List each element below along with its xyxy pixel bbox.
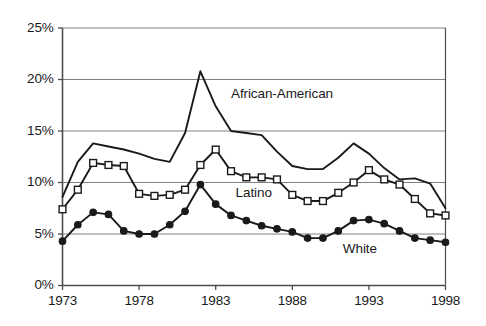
marker-square (350, 179, 357, 186)
marker-square (335, 189, 342, 196)
marker-square (212, 146, 219, 153)
x-tick-label-1973: 1973 (33, 293, 93, 308)
x-tick-label-1988: 1988 (262, 293, 322, 308)
marker-circle (366, 216, 373, 223)
marker-circle (75, 221, 82, 228)
chart-plot-area (0, 0, 486, 326)
marker-square (182, 186, 189, 193)
y-tick-label-5%: 5% (34, 226, 53, 241)
marker-circle (442, 239, 449, 246)
marker-circle (289, 229, 296, 236)
marker-circle (151, 231, 158, 238)
marker-square (151, 192, 158, 199)
marker-circle (320, 235, 327, 242)
marker-circle (59, 238, 66, 245)
marker-square (136, 190, 143, 197)
marker-circle (228, 212, 235, 219)
marker-square (243, 174, 250, 181)
marker-square (197, 162, 204, 169)
marker-square (366, 167, 373, 174)
marker-circle (396, 228, 403, 235)
marker-square (442, 212, 449, 219)
marker-circle (427, 237, 434, 244)
y-tick-label-0%: 0% (34, 277, 53, 292)
gridlines (63, 28, 446, 234)
marker-circle (335, 228, 342, 235)
marker-square (381, 176, 388, 183)
marker-square (90, 160, 97, 167)
marker-circle (412, 235, 419, 242)
y-tick-label-25%: 25% (27, 20, 53, 35)
marker-square (105, 162, 112, 169)
marker-square (320, 198, 327, 205)
marker-square (228, 168, 235, 175)
marker-square (258, 174, 265, 181)
series-label-latino: Latino (236, 185, 272, 200)
marker-circle (350, 217, 357, 224)
marker-circle (90, 209, 97, 216)
marker-circle (274, 226, 281, 233)
marker-square (120, 163, 127, 170)
marker-circle (120, 228, 127, 235)
marker-square (59, 206, 66, 213)
marker-circle (105, 211, 112, 218)
y-tick-label-15%: 15% (27, 123, 53, 138)
x-tick-label-1978: 1978 (109, 293, 169, 308)
x-tick-label-1993: 1993 (339, 293, 399, 308)
marker-circle (166, 221, 173, 228)
marker-square (396, 181, 403, 188)
marker-square (304, 198, 311, 205)
marker-circle (136, 231, 143, 238)
series-label-white: White (343, 241, 377, 256)
y-tick-label-10%: 10% (27, 174, 53, 189)
marker-circle (182, 208, 189, 215)
x-tick-label-1998: 1998 (416, 293, 476, 308)
marker-circle (243, 217, 250, 224)
unemployment-rate-line-chart: 0%5%10%15%20%25% 19731978198319881993199… (0, 0, 486, 326)
series-label-african-american: African-American (231, 86, 333, 101)
chart-axes (63, 28, 446, 286)
marker-circle (381, 220, 388, 227)
marker-square (411, 196, 418, 203)
y-tick-label-20%: 20% (27, 71, 53, 86)
x-tick-label-1983: 1983 (186, 293, 246, 308)
marker-square (74, 186, 81, 193)
marker-circle (304, 235, 311, 242)
marker-circle (212, 201, 219, 208)
marker-square (274, 176, 281, 183)
marker-square (166, 191, 173, 198)
marker-square (289, 191, 296, 198)
marker-square (427, 210, 434, 217)
marker-circle (197, 181, 204, 188)
marker-circle (258, 222, 265, 229)
